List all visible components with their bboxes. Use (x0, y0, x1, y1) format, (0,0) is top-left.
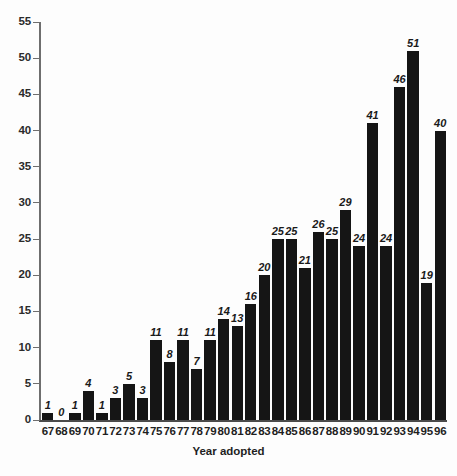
bar[interactable] (313, 232, 324, 420)
bar[interactable] (218, 319, 229, 420)
bar-group[interactable]: 25 (326, 22, 337, 420)
x-axis-tick-label: 87 (312, 425, 326, 439)
bar-group[interactable]: 11 (177, 22, 188, 420)
x-axis-tick-label: 90 (352, 425, 366, 439)
bar-group[interactable]: 0 (56, 22, 67, 420)
chart-page: 0510152025303540455055 10141353118117111… (0, 0, 457, 476)
bar-group[interactable]: 13 (232, 22, 243, 420)
x-axis-tick-label: 76 (163, 425, 177, 439)
bar-value-label: 11 (177, 327, 188, 338)
y-axis-tick-label: 10 (0, 342, 31, 354)
bar[interactable] (353, 246, 364, 420)
y-axis-tick (33, 383, 40, 384)
y-axis-tick (33, 275, 40, 276)
bar-group[interactable]: 14 (218, 22, 229, 420)
bar[interactable] (164, 362, 175, 420)
bar[interactable] (96, 413, 107, 420)
bar-group[interactable]: 46 (394, 22, 405, 420)
bar[interactable] (42, 413, 53, 420)
y-axis-tick-label: 30 (0, 197, 31, 209)
x-axis-tick-label: 83 (258, 425, 272, 439)
y-axis-tick (33, 58, 40, 59)
y-axis-tick-label: 15 (0, 305, 31, 317)
bar-value-label: 1 (99, 400, 105, 411)
bar[interactable] (380, 246, 391, 420)
bar-group[interactable]: 7 (191, 22, 202, 420)
bar[interactable] (191, 369, 202, 420)
bar-group[interactable]: 25 (272, 22, 283, 420)
bar-value-label: 1 (45, 400, 51, 411)
bar[interactable] (259, 275, 270, 420)
y-axis-tick-label-text: 55 (3, 16, 31, 28)
bar[interactable] (245, 304, 256, 420)
bar-group[interactable]: 11 (150, 22, 161, 420)
bar[interactable] (299, 268, 310, 420)
bar-value-label: 7 (194, 356, 200, 367)
x-axis-tick-label: 95 (420, 425, 434, 439)
x-axis-tick-label: 86 (298, 425, 312, 439)
bar-group[interactable]: 1 (42, 22, 53, 420)
bar[interactable] (272, 239, 283, 420)
bar[interactable] (421, 283, 432, 420)
x-axis-line (39, 420, 447, 422)
bar-value-label: 25 (272, 226, 284, 237)
x-axis-tick-label: 84 (271, 425, 285, 439)
bar-group[interactable]: 25 (286, 22, 297, 420)
bar[interactable] (69, 413, 80, 420)
bar[interactable] (232, 326, 243, 420)
bar-group[interactable]: 8 (164, 22, 175, 420)
y-axis-tick (33, 202, 40, 203)
y-axis-tick-label-text: 30 (3, 197, 31, 209)
bar-group[interactable]: 40 (435, 22, 446, 420)
x-axis-tick-label: 92 (379, 425, 393, 439)
y-axis-tick-label: 35 (0, 161, 31, 173)
bar-group[interactable]: 3 (137, 22, 148, 420)
bar-group[interactable]: 26 (313, 22, 324, 420)
bar-value-label: 14 (218, 306, 230, 317)
bar-value-label: 3 (112, 385, 118, 396)
bar[interactable] (83, 391, 94, 420)
bar-group[interactable]: 16 (245, 22, 256, 420)
bar[interactable] (435, 131, 446, 420)
bar-group[interactable]: 20 (259, 22, 270, 420)
bar-group[interactable]: 4 (83, 22, 94, 420)
bar[interactable] (110, 398, 121, 420)
bar-group[interactable]: 19 (421, 22, 432, 420)
bar-group[interactable]: 24 (380, 22, 391, 420)
y-axis-tick (33, 420, 40, 421)
bar-group[interactable]: 29 (340, 22, 351, 420)
bar-group[interactable]: 5 (123, 22, 134, 420)
bar[interactable] (326, 239, 337, 420)
y-axis-tick (33, 311, 40, 312)
bar-group[interactable]: 11 (204, 22, 215, 420)
bar-group[interactable]: 41 (367, 22, 378, 420)
y-axis-tick-label: 0 (0, 414, 31, 426)
y-axis-tick (33, 22, 40, 23)
bar[interactable] (340, 210, 351, 420)
y-axis-tick (33, 239, 40, 240)
bar-group[interactable]: 1 (96, 22, 107, 420)
y-axis-tick-label-text: 50 (3, 52, 31, 64)
bar[interactable] (367, 123, 378, 420)
x-axis-tick-label: 73 (122, 425, 136, 439)
bar[interactable] (123, 384, 134, 420)
bar-group[interactable]: 3 (110, 22, 121, 420)
bar[interactable] (407, 51, 418, 420)
bar-value-label: 25 (326, 226, 338, 237)
bar[interactable] (394, 87, 405, 420)
bar[interactable] (150, 340, 161, 420)
bar-group[interactable]: 21 (299, 22, 310, 420)
bar[interactable] (137, 398, 148, 420)
bar-group[interactable]: 51 (407, 22, 418, 420)
bar-group[interactable]: 24 (353, 22, 364, 420)
bar-group[interactable]: 1 (69, 22, 80, 420)
y-axis-tick (33, 130, 40, 131)
bar-value-label: 4 (85, 378, 91, 389)
bar-value-label: 5 (126, 371, 132, 382)
bar[interactable] (204, 340, 215, 420)
y-axis-tick-label-text: 20 (3, 269, 31, 281)
y-axis-tick-label-text: 45 (3, 88, 31, 100)
bar-value-label: 16 (245, 291, 257, 302)
bar[interactable] (177, 340, 188, 420)
bar[interactable] (286, 239, 297, 420)
